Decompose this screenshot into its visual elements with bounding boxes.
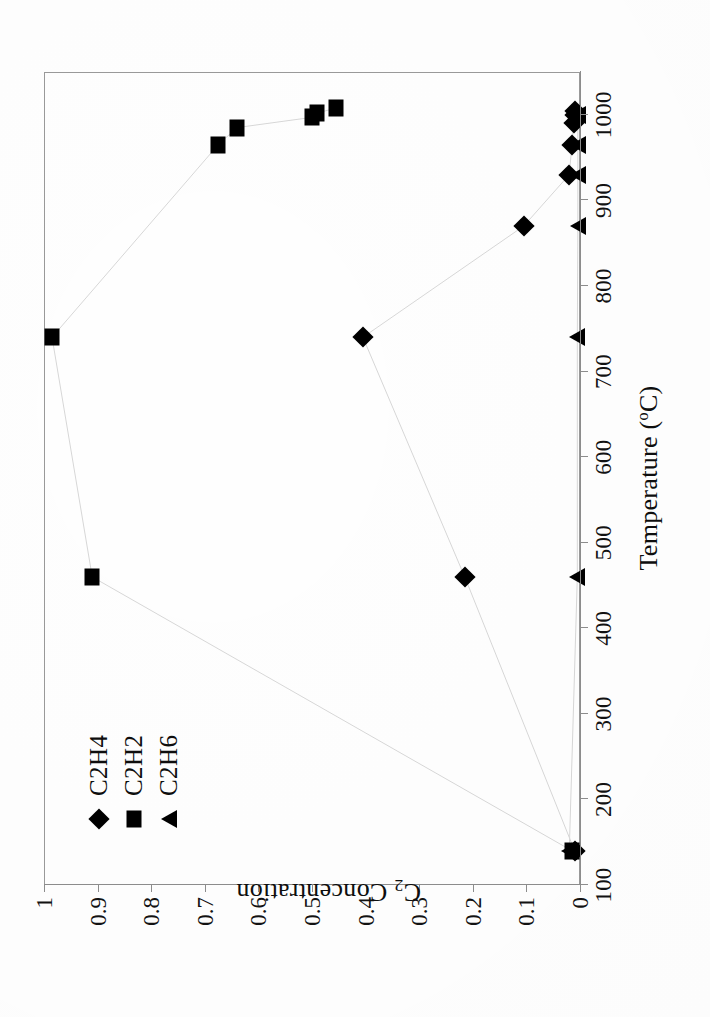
x-axis-tick [581, 884, 588, 885]
x-axis-tick [581, 541, 588, 542]
x-axis-tick-label: 100 [592, 867, 615, 902]
figure-page: 1002003004005006007008009001000 00.10.20… [0, 0, 710, 1017]
y-axis-tick [98, 885, 99, 892]
rotated-figure-container: 1002003004005006007008009001000 00.10.20… [10, 29, 700, 989]
x-axis-tick [581, 712, 588, 713]
y-axis-tick-label: 0 [569, 897, 592, 909]
x-axis-tick [581, 113, 588, 114]
data-point-c2h2 [229, 119, 244, 136]
legend-marker-triangle [159, 809, 179, 829]
y-axis-tick-label: 1 [33, 897, 56, 909]
x-axis-tick [581, 370, 588, 371]
x-axis-tick-label: 1000 [592, 91, 615, 138]
x-axis-tick-label: 500 [592, 525, 615, 560]
x-axis-tick [581, 456, 588, 457]
y-axis-tick [526, 885, 527, 892]
scatter-chart: 1002003004005006007008009001000 00.10.20… [10, 29, 700, 989]
data-point-c2h6 [570, 217, 586, 235]
data-point-c2h2 [85, 568, 100, 585]
subscript-two: 2 [394, 875, 403, 895]
square-marker [127, 810, 142, 827]
x-axis-tick-label: 600 [592, 439, 615, 474]
y-axis-title: C2 Concentration [148, 874, 508, 907]
x-axis-tick [581, 284, 588, 285]
legend-label: C2H6 [155, 734, 183, 795]
x-axis-tick-label: 700 [592, 353, 615, 388]
data-point-c2h2 [211, 136, 226, 153]
data-point-c2h2 [329, 99, 344, 116]
x-axis-line [580, 71, 581, 885]
x-axis-tick [581, 199, 588, 200]
y-axis-tick [580, 885, 581, 892]
legend-item-c2h6: C2H6 [156, 734, 182, 828]
data-point-c2h6 [570, 135, 586, 153]
diamond-marker [88, 808, 109, 829]
triangle-marker [161, 810, 177, 828]
y-axis-tick-label: 0.9 [86, 897, 109, 926]
data-point-c2h6 [570, 165, 586, 183]
data-point-c2h2 [310, 104, 325, 121]
legend-marker-square [124, 809, 144, 829]
data-point-c2h6 [569, 328, 585, 346]
degree-symbol: o [634, 412, 651, 420]
data-point-c2h2 [45, 328, 60, 345]
legend-label: C2H4 [85, 734, 113, 795]
x-axis-tick-label: 900 [592, 182, 615, 217]
x-axis-tick-label: 400 [592, 610, 615, 645]
legend-label: C2H2 [120, 734, 148, 795]
legend-item-c2h2: C2H2 [121, 734, 147, 828]
x-axis-tick-label: 300 [592, 696, 615, 731]
data-point-c2h6 [569, 567, 585, 585]
data-point-c2h6 [561, 841, 577, 859]
x-axis-tick-label: 800 [592, 268, 615, 303]
x-axis-title: Temperature (oC) [634, 71, 664, 885]
y-axis-tick [44, 885, 45, 892]
y-axis-tick-label: 0.1 [515, 897, 538, 926]
x-axis-tick-label: 200 [592, 781, 615, 816]
legend-marker-diamond [89, 809, 109, 829]
legend-item-c2h4: C2H4 [86, 734, 112, 828]
x-axis-tick [581, 627, 588, 628]
x-axis-tick [581, 798, 588, 799]
chart-legend: C2H4C2H2C2H6 [86, 734, 182, 828]
